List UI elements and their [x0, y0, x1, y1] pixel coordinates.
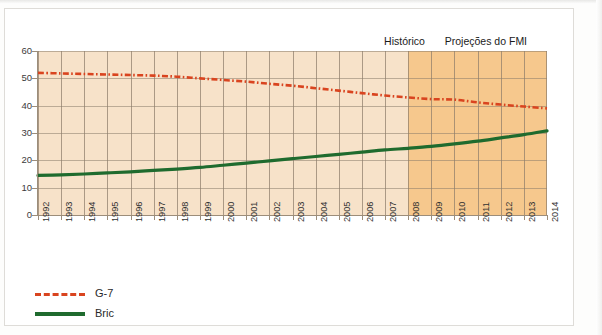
legend-swatch-icon — [35, 312, 85, 316]
legend-label: Bric — [95, 306, 114, 320]
x-tick-label: 2014 — [551, 202, 560, 222]
x-tick-label: 2010 — [458, 202, 467, 222]
x-tick-mark — [454, 216, 455, 220]
x-tick-mark — [107, 216, 108, 220]
x-tick-label: 2001 — [250, 202, 259, 222]
y-tick-label: 20 — [10, 155, 32, 164]
y-tick-mark — [32, 188, 37, 189]
y-tick-label: 60 — [10, 46, 32, 55]
x-tick-label: 2000 — [227, 202, 236, 222]
chart-figure: HistóricoProjeções do FMI 0102030405060 … — [4, 8, 574, 326]
x-tick-label: 2004 — [320, 202, 329, 222]
x-tick-label: 2011 — [482, 202, 491, 222]
series-line-bric — [38, 131, 547, 176]
x-tick-mark — [269, 216, 270, 220]
x-tick-mark — [547, 216, 548, 220]
y-tick-label: 0 — [10, 210, 32, 219]
x-tick-label: 1999 — [204, 202, 213, 222]
x-tick-label: 2008 — [412, 202, 421, 222]
page-root: HistóricoProjeções do FMI 0102030405060 … — [0, 0, 602, 335]
y-tick-mark — [32, 215, 37, 216]
legend-swatch-icon — [35, 293, 85, 296]
series-overlay — [38, 51, 547, 215]
x-tick-label: 2007 — [389, 202, 398, 222]
x-tick-label: 2009 — [435, 202, 444, 222]
x-tick-label: 1998 — [181, 202, 190, 222]
y-tick-mark — [32, 160, 37, 161]
x-tick-label: 1995 — [111, 202, 120, 222]
x-tick-mark — [339, 216, 340, 220]
x-tick-mark — [478, 216, 479, 220]
x-tick-label: 1997 — [158, 202, 167, 222]
region-caption-projecoes-fmi: Projeções do FMI — [445, 35, 527, 47]
x-tick-mark — [385, 216, 386, 220]
x-tick-mark — [316, 216, 317, 220]
x-tick-label: 1994 — [88, 202, 97, 222]
chart-legend: G-7Bric — [29, 284, 229, 324]
x-tick-label: 1996 — [135, 202, 144, 222]
x-tick-mark — [38, 216, 39, 220]
x-tick-mark — [293, 216, 294, 220]
page-edge-top — [0, 0, 602, 4]
x-tick-mark — [431, 216, 432, 220]
x-tick-mark — [501, 216, 502, 220]
x-tick-mark — [200, 216, 201, 220]
y-tick-label: 50 — [10, 73, 32, 82]
x-tick-label: 2013 — [528, 202, 537, 222]
y-tick-label: 40 — [10, 101, 32, 110]
x-tick-mark — [131, 216, 132, 220]
series-line-g7 — [38, 73, 547, 109]
side-credit-text — [592, 14, 601, 164]
x-tick-label: 2006 — [366, 202, 375, 222]
legend-item-bric[interactable]: Bric — [29, 304, 229, 324]
y-tick-mark — [32, 78, 37, 79]
x-tick-label: 1993 — [65, 202, 74, 222]
x-tick-mark — [84, 216, 85, 220]
region-caption-historico: Histórico — [384, 35, 425, 47]
legend-item-g-7[interactable]: G-7 — [29, 284, 229, 304]
legend-label: G-7 — [95, 286, 113, 300]
x-tick-label: 2002 — [273, 202, 282, 222]
x-tick-mark — [154, 216, 155, 220]
y-tick-mark — [32, 51, 37, 52]
x-tick-mark — [177, 216, 178, 220]
x-tick-mark — [408, 216, 409, 220]
x-tick-mark — [61, 216, 62, 220]
x-tick-label: 2005 — [343, 202, 352, 222]
x-tick-mark — [223, 216, 224, 220]
x-tick-label: 2003 — [297, 202, 306, 222]
y-axis-tick-labels: 0102030405060 — [5, 9, 32, 327]
x-tick-mark — [524, 216, 525, 220]
x-tick-mark — [362, 216, 363, 220]
x-tick-label: 2012 — [505, 202, 514, 222]
y-axis-line — [37, 51, 38, 216]
y-tick-label: 30 — [10, 128, 32, 137]
x-tick-mark — [246, 216, 247, 220]
y-tick-mark — [32, 106, 37, 107]
y-tick-label: 10 — [10, 183, 32, 192]
y-tick-mark — [32, 133, 37, 134]
x-tick-label: 1992 — [42, 202, 51, 222]
